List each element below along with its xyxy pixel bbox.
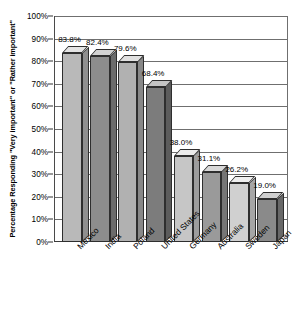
- bar-value-label: 68.4%: [142, 69, 186, 78]
- bar: 83.8%: [62, 53, 82, 242]
- bar-side-face: [82, 46, 89, 242]
- y-axis-tick-mark: [48, 174, 53, 175]
- y-axis-tick-label: 60%: [14, 102, 48, 111]
- y-axis-tick-label: 80%: [14, 57, 48, 66]
- bar-value-label: 79.6%: [114, 44, 158, 53]
- y-axis-tick-label: 90%: [14, 34, 48, 43]
- y-axis-tick-label: 70%: [14, 79, 48, 88]
- y-axis-tick-mark: [48, 196, 53, 197]
- y-axis-tick-mark: [48, 151, 53, 152]
- bar: 68.4%: [146, 87, 166, 242]
- bar: 82.4%: [90, 56, 110, 242]
- y-axis-tick-mark: [48, 16, 53, 17]
- bar-value-label: 31.1%: [198, 154, 242, 163]
- bar-front-face: [90, 56, 110, 242]
- bar-front-face: [146, 87, 166, 242]
- y-axis-tick-mark: [48, 61, 53, 62]
- bar-side-face: [110, 49, 117, 242]
- y-axis-tick-mark: [48, 129, 53, 130]
- y-axis-tick-labels: 100%90%80%70%60%50%40%30%20%10%0%: [12, 16, 48, 242]
- bar-chart: Percentage Responding "Very important" o…: [0, 0, 300, 320]
- y-axis-tick-mark: [48, 219, 53, 220]
- bar-series: 83.8%82.4%79.6%68.4%38.0%31.1%26.2%19.0%: [54, 16, 288, 242]
- bar-front-face: [62, 53, 82, 242]
- y-axis-tick-label: 0%: [14, 238, 48, 247]
- bar-value-label: 38.0%: [170, 138, 214, 147]
- y-axis-tick-mark: [48, 106, 53, 107]
- y-axis-tick-label: 10%: [14, 215, 48, 224]
- bar-side-face: [137, 56, 144, 242]
- y-axis-tick-label: 50%: [14, 125, 48, 134]
- bar-value-label: 26.2%: [225, 165, 269, 174]
- y-axis-tick-label: 30%: [14, 170, 48, 179]
- bar-front-face: [118, 62, 138, 242]
- y-axis-tick-mark: [48, 83, 53, 84]
- bar: 79.6%: [118, 62, 138, 242]
- y-axis-tick-label: 100%: [14, 12, 48, 21]
- bar-side-face: [165, 81, 172, 242]
- x-axis-category-labels: MexicoIndiaPolandUnited StatesGermanyAus…: [54, 244, 288, 320]
- y-axis-tick-label: 20%: [14, 192, 48, 201]
- bar-side-face: [193, 150, 200, 242]
- y-axis-tick-mark: [48, 242, 53, 243]
- bar-value-label: 19.0%: [253, 181, 297, 190]
- y-axis-tick-label: 40%: [14, 147, 48, 156]
- y-axis-tick-mark: [48, 38, 53, 39]
